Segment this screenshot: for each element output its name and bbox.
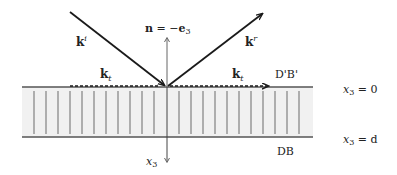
incident-wave-label: ki	[76, 34, 87, 49]
wave-reflection-diagram: ki kr n = −e3 kt kt D'B' DB x3 x3 = 0 x3…	[0, 0, 397, 175]
normal-vector-label: n = −e3	[145, 22, 191, 36]
x3-axis-label: x3	[146, 155, 157, 169]
bottom-interface-equation: x3 = d	[343, 133, 378, 147]
reflected-wave-label: kr	[245, 34, 258, 49]
tangential-wave-right-label: kt	[232, 67, 244, 83]
tangential-wave-left-label: kt	[100, 67, 112, 83]
top-boundary-label: D'B'	[275, 68, 298, 81]
top-interface-equation: x3 = 0	[343, 83, 378, 97]
bottom-boundary-label: DB	[277, 145, 294, 158]
